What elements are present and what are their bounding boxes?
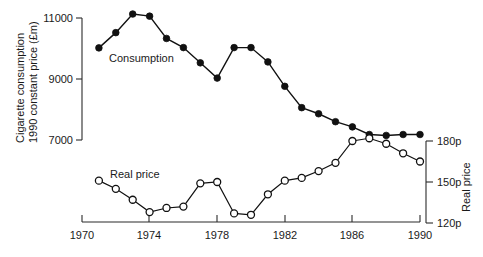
real-price-data-point xyxy=(146,209,153,216)
right-axis-group: 180p 150p 120p Real price xyxy=(426,135,472,229)
right-axis-title: Real price xyxy=(460,162,472,212)
real-price-data-point xyxy=(298,174,305,181)
consumption-series-label: Consumption xyxy=(109,52,174,64)
real-price-data-point xyxy=(214,179,221,186)
left-tick-label-9000: 9000 xyxy=(49,73,73,85)
real-price-data-point xyxy=(417,158,424,165)
real-price-data-point xyxy=(332,159,339,166)
real-price-data-point xyxy=(248,211,255,218)
real-price-data-point xyxy=(349,138,356,145)
real-price-data-point xyxy=(231,210,238,217)
consumption-data-point xyxy=(298,104,305,111)
right-tick-label-150p: 150p xyxy=(437,176,461,188)
right-tick-label-120p: 120p xyxy=(437,217,461,229)
left-tick-label-7000: 7000 xyxy=(49,134,73,146)
consumption-data-point xyxy=(349,124,356,131)
x-tick-label-1990: 1990 xyxy=(408,229,432,241)
consumption-data-point xyxy=(163,35,170,42)
chart-svg: 11000 9000 7000 Cigarette consumption 19… xyxy=(0,0,483,257)
consumption-data-point xyxy=(417,131,424,138)
left-tick-label-11000: 11000 xyxy=(43,12,73,24)
consumption-data-point xyxy=(332,118,339,125)
x-tick-label-1970: 1970 xyxy=(70,229,94,241)
x-tick-label-1982: 1982 xyxy=(273,229,297,241)
x-tick-label-1974: 1974 xyxy=(137,229,161,241)
series-layer xyxy=(95,11,423,219)
consumption-data-point xyxy=(265,59,272,66)
left-axis-title-line2: 1990 constant price (£m) xyxy=(27,21,39,143)
consumption-data-point xyxy=(383,132,390,139)
real-price-data-point xyxy=(129,196,136,203)
real-price-data-point xyxy=(95,177,102,184)
real-price-data-point xyxy=(197,180,204,187)
cigarette-consumption-chart: 11000 9000 7000 Cigarette consumption 19… xyxy=(0,0,483,257)
real-price-data-point xyxy=(281,177,288,184)
real-price-data-point xyxy=(264,191,271,198)
left-axis-title-line1: Cigarette consumption xyxy=(14,33,26,143)
real-price-data-point xyxy=(315,168,322,175)
consumption-data-point xyxy=(248,44,255,51)
x-tick-label-1986: 1986 xyxy=(340,229,364,241)
real-price-data-point xyxy=(383,140,390,147)
real-price-series-label: Real price xyxy=(110,168,160,180)
consumption-line xyxy=(99,14,420,135)
left-axis-group: 11000 9000 7000 Cigarette consumption 19… xyxy=(14,12,82,146)
consumption-data-point xyxy=(282,83,289,90)
real-price-data-point xyxy=(180,203,187,210)
real-price-data-point xyxy=(163,204,170,211)
consumption-data-point xyxy=(146,13,153,20)
consumption-data-point xyxy=(96,45,103,52)
real-price-data-point xyxy=(400,150,407,157)
consumption-data-point xyxy=(315,110,322,117)
consumption-data-point xyxy=(197,60,204,67)
consumption-data-point xyxy=(113,29,120,36)
real-price-data-point xyxy=(366,135,373,142)
consumption-data-point xyxy=(180,44,187,51)
x-tick-label-1978: 1978 xyxy=(205,229,229,241)
consumption-data-point xyxy=(129,11,136,18)
consumption-data-point xyxy=(231,44,238,51)
real-price-data-point xyxy=(112,185,119,192)
consumption-data-point xyxy=(400,131,407,138)
right-tick-label-180p: 180p xyxy=(437,135,461,147)
consumption-data-point xyxy=(214,75,221,82)
